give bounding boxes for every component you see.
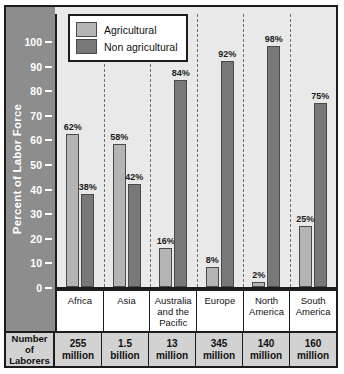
bar-agricultural [159, 248, 172, 287]
y-axis-tick-100: 100 [7, 36, 55, 48]
y-axis-band: Percent of Labor Force 10090807060504030… [6, 7, 55, 331]
category-separator [197, 14, 198, 287]
chart-screenshot: Percent of Labor Force 10090807060504030… [0, 0, 344, 374]
bar-non-agricultural [81, 194, 94, 287]
laborers-unit: million [250, 350, 282, 362]
bar-agricultural [252, 282, 265, 287]
y-axis-tick-90: 90 [7, 61, 55, 73]
laborers-unit: million [156, 350, 188, 362]
category-label-cell: South America [290, 291, 336, 331]
bar-agricultural [66, 134, 79, 287]
number-of-laborers-row: Number of Laborers 255million1.5billion1… [6, 331, 336, 366]
legend-item-non-agricultural: Non agricultural [76, 38, 180, 55]
bar-value-label: 62% [58, 122, 88, 132]
y-axis-tick-50: 50 [7, 159, 55, 171]
legend-item-agricultural: Agricultural [76, 21, 180, 38]
laborers-number: 13 [166, 338, 177, 350]
y-axis-tick-30: 30 [7, 208, 55, 220]
y-axis-tick-10: 10 [7, 257, 55, 269]
bar-value-label: 84% [166, 68, 196, 78]
bar-non-agricultural [128, 184, 141, 287]
bar-value-label: 58% [104, 132, 134, 142]
category-label-cell: Australia and the Pacific [150, 291, 197, 331]
legend-label-agricultural: Agricultural [104, 24, 157, 36]
bar-non-agricultural [314, 103, 327, 288]
laborers-unit: million [203, 350, 235, 362]
y-axis-tick-0: 0 [7, 282, 55, 294]
laborers-cell: 345million [196, 333, 243, 366]
y-axis-tick-20: 20 [7, 233, 55, 245]
bar-agricultural [113, 144, 126, 287]
number-of-laborers-header: Number of Laborers [6, 333, 55, 366]
laborers-cell: 140million [243, 333, 290, 366]
laborers-cell: 13million [149, 333, 196, 366]
y-axis-tick-40: 40 [7, 184, 55, 196]
laborers-number: 255 [70, 338, 87, 350]
laborers-number: 345 [211, 338, 228, 350]
category-separator [290, 14, 291, 287]
y-axis-tick-60: 60 [7, 134, 55, 146]
y-axis-tick-70: 70 [7, 110, 55, 122]
category-label-row: AfricaAsiaAustralia and the PacificEurop… [55, 289, 336, 331]
bar-agricultural [299, 226, 312, 288]
bar-non-agricultural [174, 80, 187, 287]
legend-label-non-agricultural: Non agricultural [104, 41, 178, 53]
laborers-cell: 160million [290, 333, 336, 366]
category-label-cell: Europe [197, 291, 244, 331]
legend-swatch-agricultural-icon [76, 22, 97, 37]
legend-swatch-non-agricultural-icon [76, 39, 97, 54]
bar-value-label: 92% [212, 49, 242, 59]
bar-non-agricultural [267, 46, 280, 287]
bar-agricultural [206, 267, 219, 287]
category-label-cell: Asia [104, 291, 151, 331]
laborers-number: 140 [258, 338, 275, 350]
chart-legend: Agricultural Non agricultural [68, 14, 188, 62]
bar-value-label: 98% [259, 34, 289, 44]
y-axis-tick-80: 80 [7, 85, 55, 97]
laborers-unit: billion [110, 350, 139, 362]
laborers-unit: million [297, 350, 329, 362]
bar-value-label: 42% [119, 172, 149, 182]
laborers-number: 160 [305, 338, 322, 350]
bar-value-label: 38% [73, 182, 103, 192]
bar-non-agricultural [221, 61, 234, 287]
laborers-unit: million [62, 350, 94, 362]
category-separator [243, 14, 244, 287]
category-label-cell: Africa [57, 291, 104, 331]
laborers-number: 1.5 [118, 338, 132, 350]
laborers-cell: 1.5billion [102, 333, 149, 366]
bar-value-label: 75% [305, 91, 335, 101]
number-of-laborers-cells: 255million1.5billion13million345million1… [55, 333, 336, 366]
category-label-cell: North America [244, 291, 291, 331]
plot-area: 62%58%16%8%2%25%38%42%84%92%98%75% Agric… [55, 14, 336, 289]
laborers-cell: 255million [55, 333, 102, 366]
